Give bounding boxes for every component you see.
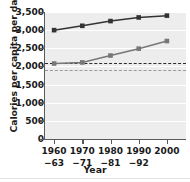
y-tick-mark [40,30,45,31]
y-tick-mark [40,12,45,13]
upper-series-marker [136,15,141,20]
lower-series-line [54,41,167,64]
chart-figure: Calories per capita per day 05001,0001,5… [0,0,190,182]
x-tick-label: 2000 [154,146,179,158]
lower-series-marker [136,46,141,51]
lower-series-marker [80,60,85,65]
x-tick-label-line1: 1960 [42,146,67,156]
plot-area [45,12,186,139]
lower-series-marker [165,39,170,44]
y-tick-mark [40,102,45,103]
lower-series-marker [52,61,57,66]
upper-series-marker [108,19,113,24]
x-axis-title: Year [0,164,190,175]
x-tick-label-line1: 1970 [70,146,95,156]
series-layer [45,12,186,139]
x-tick-label-line1: 1980 [98,146,123,156]
y-tick-mark [40,139,45,140]
lower-series-marker [108,53,113,58]
y-tick-mark [40,120,45,121]
upper-series-marker [80,23,85,28]
x-axis-line [44,139,186,140]
footer-divider [0,178,190,179]
x-tick-label-line1: 1990 [126,146,151,156]
x-tick-label-line1: 2000 [154,146,179,156]
y-tick-mark [40,66,45,67]
y-tick-mark [40,48,45,49]
upper-series-marker [165,13,170,18]
upper-series-marker [52,28,57,33]
y-tick-mark [40,84,45,85]
